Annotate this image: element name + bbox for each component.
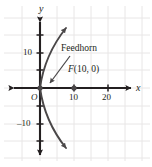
coordinate-plane-graphic [0, 0, 152, 167]
origin-label: O [31, 93, 38, 102]
parabola-figure: y x O 10 20 10 –10 Feedhorn F(10, 0) [0, 0, 152, 167]
focus-point-marker [71, 85, 76, 90]
y-axis-label: y [39, 4, 43, 14]
x-tick-label-20: 20 [102, 93, 111, 102]
y-tick-label-10: 10 [23, 48, 32, 57]
vertex-point-marker [37, 85, 42, 90]
focus-point-label: F(10, 0) [68, 65, 99, 75]
x-tick-label-10: 10 [69, 93, 78, 102]
y-tick-label-neg10: –10 [17, 119, 31, 128]
focus-point-label-coords: (10, 0) [74, 64, 99, 74]
x-axis-label: x [136, 83, 140, 93]
feedhorn-annotation-label: Feedhorn [61, 44, 97, 54]
grid-lines [4, 6, 150, 161]
